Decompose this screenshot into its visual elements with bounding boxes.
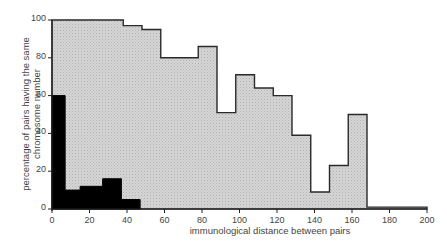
x-tick-label: 20: [84, 215, 94, 225]
y-tick-label: 20: [36, 164, 46, 174]
x-tick-label: 100: [232, 215, 247, 225]
x-tick-label: 60: [159, 215, 169, 225]
x-tick-label: 180: [382, 215, 397, 225]
x-tick-label: 200: [419, 215, 434, 225]
x-tick-label: 40: [122, 215, 132, 225]
x-axis-title: immunological distance between pairs: [190, 225, 351, 236]
y-tick-label: 0: [41, 202, 46, 212]
y-tick-label: 100: [31, 13, 46, 23]
y-tick-label: 80: [36, 51, 46, 61]
x-tick-label: 160: [344, 215, 359, 225]
x-axis-ticks: 020406080100120140160180200: [49, 209, 434, 225]
x-tick-label: 140: [307, 215, 322, 225]
histogram-chart: 020406080100120140160180200 020406080100…: [0, 0, 447, 247]
y-axis-title-line-1: percentage of pairs having the same: [20, 37, 31, 191]
x-tick-label: 80: [197, 215, 207, 225]
y-axis-title-line-2: chromosome number: [31, 69, 42, 159]
x-tick-label: 120: [269, 215, 284, 225]
x-tick-label: 0: [49, 215, 54, 225]
